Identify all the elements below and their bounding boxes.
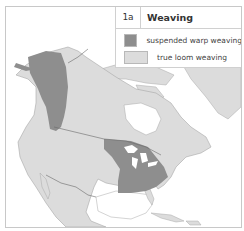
legend-header: 1a Weaving (116, 7, 242, 29)
legend-label: true loom weaving (157, 53, 227, 62)
cuba (151, 213, 184, 222)
swatch-true-loom (124, 51, 148, 64)
legend-title: Weaving (141, 12, 193, 23)
legend-item-true-loom: true loom weaving (116, 49, 242, 65)
map-frame: 1a Weaving suspended warp weaving true l… (5, 6, 242, 228)
legend: 1a Weaving suspended warp weaving true l… (115, 7, 242, 68)
legend-label: suspended warp weaving (146, 36, 242, 45)
legend-number: 1a (116, 7, 141, 28)
gulf-of-mexico (96, 191, 152, 219)
legend-item-suspended-warp: suspended warp weaving (116, 32, 242, 48)
swatch-suspended-warp (124, 34, 137, 47)
